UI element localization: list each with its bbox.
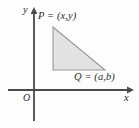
point-p-label: P = (x,y) — [38, 11, 76, 22]
y-axis-label: y — [23, 5, 28, 16]
origin-label: O — [23, 93, 30, 103]
x-axis-label: x — [124, 93, 129, 104]
right-triangle-shape — [53, 27, 105, 70]
coordinate-plane-figure: P = (x,y) Q = (a,b) y x O — [0, 0, 139, 128]
point-q-label: Q = (a,b) — [74, 72, 115, 83]
y-axis-arrowhead-icon — [31, 7, 38, 14]
